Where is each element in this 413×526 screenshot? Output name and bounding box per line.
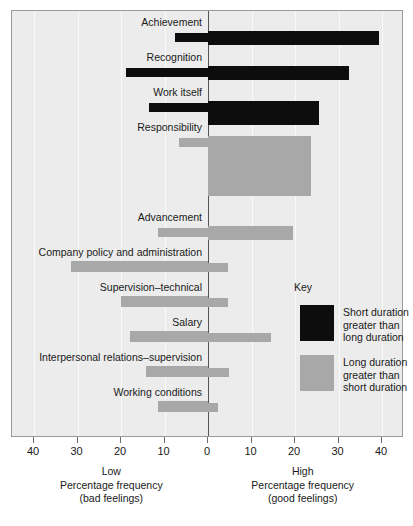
- x-tick-label-7: 30: [331, 445, 343, 457]
- category-label-9: Working conditions: [113, 386, 202, 398]
- x-tick-mark-6: [294, 437, 295, 443]
- bar-thick-0: [208, 31, 379, 45]
- x-tick-label-1: 30: [70, 445, 82, 457]
- caption-left-line2: Percentage frequency: [60, 479, 163, 493]
- legend-label-short-duration-line1: Short duration: [343, 306, 409, 319]
- category-label-5: Company policy and administration: [39, 246, 202, 258]
- x-tick-label-3: 10: [157, 445, 169, 457]
- legend-swatch-long-duration: [300, 355, 334, 391]
- gridline-neg20: [121, 11, 122, 436]
- x-tick-mark-1: [77, 437, 78, 443]
- bar-thick-9: [158, 401, 208, 411]
- bar-thick-3: [208, 136, 311, 196]
- caption-right-line3: (good feelings): [251, 492, 354, 506]
- legend-label-short-duration-line2: greater than: [343, 319, 409, 332]
- x-tick-label-5: 10: [244, 445, 256, 457]
- gridline-neg30: [78, 11, 79, 436]
- category-label-3: Responsibility: [137, 121, 202, 133]
- x-tick-label-6: 20: [288, 445, 300, 457]
- bar-thick-7: [130, 331, 208, 341]
- x-tick-label-4: 0: [204, 445, 210, 457]
- legend-label-short-duration-line3: long duration: [343, 331, 409, 344]
- caption-left-line1: Low: [60, 465, 163, 479]
- legend-swatch-short-duration: [300, 305, 334, 341]
- gridline-neg40: [34, 11, 35, 436]
- plot-panel: AchievementRecognitionWork itselfRespons…: [11, 10, 403, 437]
- category-label-8: Interpersonal relations–supervision: [39, 351, 202, 363]
- legend-label-long-duration-line3: short duration: [343, 381, 407, 394]
- legend-label-short-duration: Short duration greater than long duratio…: [343, 306, 409, 344]
- chart-figure: AchievementRecognitionWork itselfRespons…: [0, 0, 413, 526]
- x-tick-mark-2: [120, 437, 121, 443]
- category-label-4: Advancement: [138, 211, 202, 223]
- x-axis: 40302010010203040 Low Percentage frequen…: [11, 437, 403, 526]
- bar-thick-6: [121, 296, 208, 306]
- category-label-7: Salary: [172, 316, 202, 328]
- x-tick-label-0: 40: [27, 445, 39, 457]
- caption-right-line2: Percentage frequency: [251, 479, 354, 493]
- bar-thick-8: [146, 366, 208, 376]
- bar-thick-5: [71, 261, 208, 271]
- x-tick-mark-0: [33, 437, 34, 443]
- x-axis-caption-left: Low Percentage frequency (bad feelings): [60, 465, 163, 506]
- category-label-1: Recognition: [147, 51, 202, 63]
- legend-label-long-duration-line1: Long duration: [343, 356, 407, 369]
- category-label-6: Supervision–technical: [100, 281, 202, 293]
- caption-right-line1: High: [251, 465, 354, 479]
- bar-thick-4: [208, 226, 293, 240]
- x-tick-mark-8: [381, 437, 382, 443]
- x-tick-mark-5: [251, 437, 252, 443]
- category-label-2: Work itself: [153, 86, 202, 98]
- x-tick-label-2: 20: [114, 445, 126, 457]
- legend-label-long-duration: Long duration greater than short duratio…: [343, 356, 407, 394]
- legend-title: Key: [294, 281, 312, 293]
- x-tick-mark-7: [338, 437, 339, 443]
- x-axis-caption-right: High Percentage frequency (good feelings…: [251, 465, 354, 506]
- x-tick-label-8: 40: [375, 445, 387, 457]
- x-tick-mark-3: [164, 437, 165, 443]
- bar-thick-1: [208, 66, 349, 80]
- caption-left-line3: (bad feelings): [60, 492, 163, 506]
- x-tick-mark-4: [207, 437, 208, 443]
- legend-label-long-duration-line2: greater than: [343, 369, 407, 382]
- category-label-0: Achievement: [141, 16, 202, 28]
- bar-thick-2: [208, 101, 319, 125]
